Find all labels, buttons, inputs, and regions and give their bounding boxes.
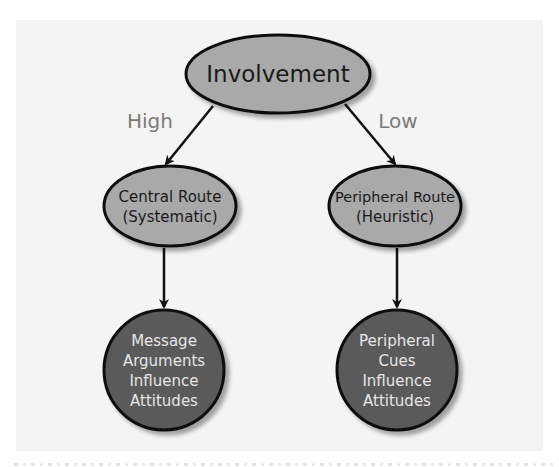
edge-label-high: High [127, 109, 173, 133]
node-peripheral-cues [337, 310, 457, 430]
elaboration-likelihood-diagram: High Low Involvement Central Route (Syst… [0, 0, 559, 467]
node-peripheral-route-line2: (Heuristic) [356, 208, 434, 226]
node-peripheral-cues-line1: Peripheral [359, 332, 435, 350]
node-message-arguments-line1: Message [131, 332, 197, 350]
edge-label-low: Low [378, 109, 417, 133]
node-peripheral-cues-line2: Cues [378, 352, 415, 370]
node-message-arguments-line2: Arguments [123, 352, 205, 370]
node-message-arguments [104, 310, 224, 430]
node-peripheral-cues-line4: Attitudes [363, 392, 431, 410]
node-message-arguments-line3: Influence [129, 372, 198, 390]
node-involvement-label: Involvement [206, 61, 349, 87]
node-central-route-line1: Central Route [119, 188, 222, 206]
cropped-caption-strip [0, 462, 559, 467]
node-peripheral-route-line1: Peripheral Route [335, 189, 455, 205]
arrow-high-to-central [166, 106, 213, 164]
node-central-route-line2: (Systematic) [122, 208, 217, 226]
node-peripheral-cues-line3: Influence [362, 372, 431, 390]
node-peripheral-route [329, 166, 461, 246]
cropped-caption-text-fragment [14, 463, 553, 466]
node-message-arguments-line4: Attitudes [130, 392, 198, 410]
node-central-route [104, 166, 236, 246]
